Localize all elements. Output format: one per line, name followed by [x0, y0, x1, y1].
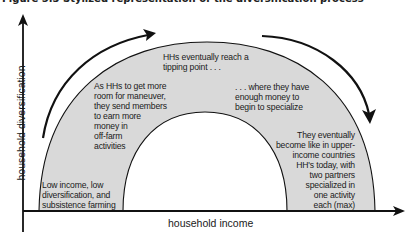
stage-low-income: Low income, lowdiversification, andsubsi…: [42, 180, 116, 210]
stage-text-line: room for maneuver,: [94, 91, 167, 101]
stage-text-line: activities: [94, 141, 167, 151]
stage-text-line: They eventually: [262, 130, 355, 140]
stage-text-line: HH's today, with: [262, 160, 355, 170]
stage-text-line: they send members: [94, 101, 167, 111]
stage-text-line: begin to specialize: [235, 102, 309, 112]
stage-text-line: two partners: [262, 170, 355, 180]
stage-text-line: tipping point . . .: [163, 62, 249, 72]
x-axis-label: household income: [168, 217, 253, 229]
stage-text-line: become like in upper-: [262, 140, 355, 150]
stage-specialize: . . . where they haveenough money tobegi…: [235, 82, 309, 112]
stage-text-line: . . . where they have: [235, 82, 309, 92]
stage-text-line: to earn more: [94, 111, 167, 121]
stage-text-line: income countries: [262, 150, 355, 160]
stage-text-line: one activity: [262, 190, 355, 200]
stage-text-line: off-farm: [94, 131, 167, 141]
stage-text-line: subsistence farming: [42, 200, 116, 210]
stage-off-farm: As HHs to get moreroom for maneuver,they…: [94, 81, 167, 151]
stage-text-line: As HHs to get more: [94, 81, 167, 91]
stage-text-line: each (max): [262, 200, 355, 210]
stage-text-line: money in: [94, 121, 167, 131]
stage-text-line: diversification, and: [42, 190, 116, 200]
y-axis-label: household diversification: [15, 53, 27, 193]
stage-text-line: Low income, low: [42, 180, 116, 190]
stage-upper-income: They eventuallybecome like in upper-inco…: [262, 130, 355, 210]
stage-tipping-point: HHs eventually reach atipping point . . …: [163, 52, 249, 72]
stage-text-line: HHs eventually reach a: [163, 52, 249, 62]
stage-text-line: specialized in: [262, 180, 355, 190]
stage-text-line: enough money to: [235, 92, 309, 102]
